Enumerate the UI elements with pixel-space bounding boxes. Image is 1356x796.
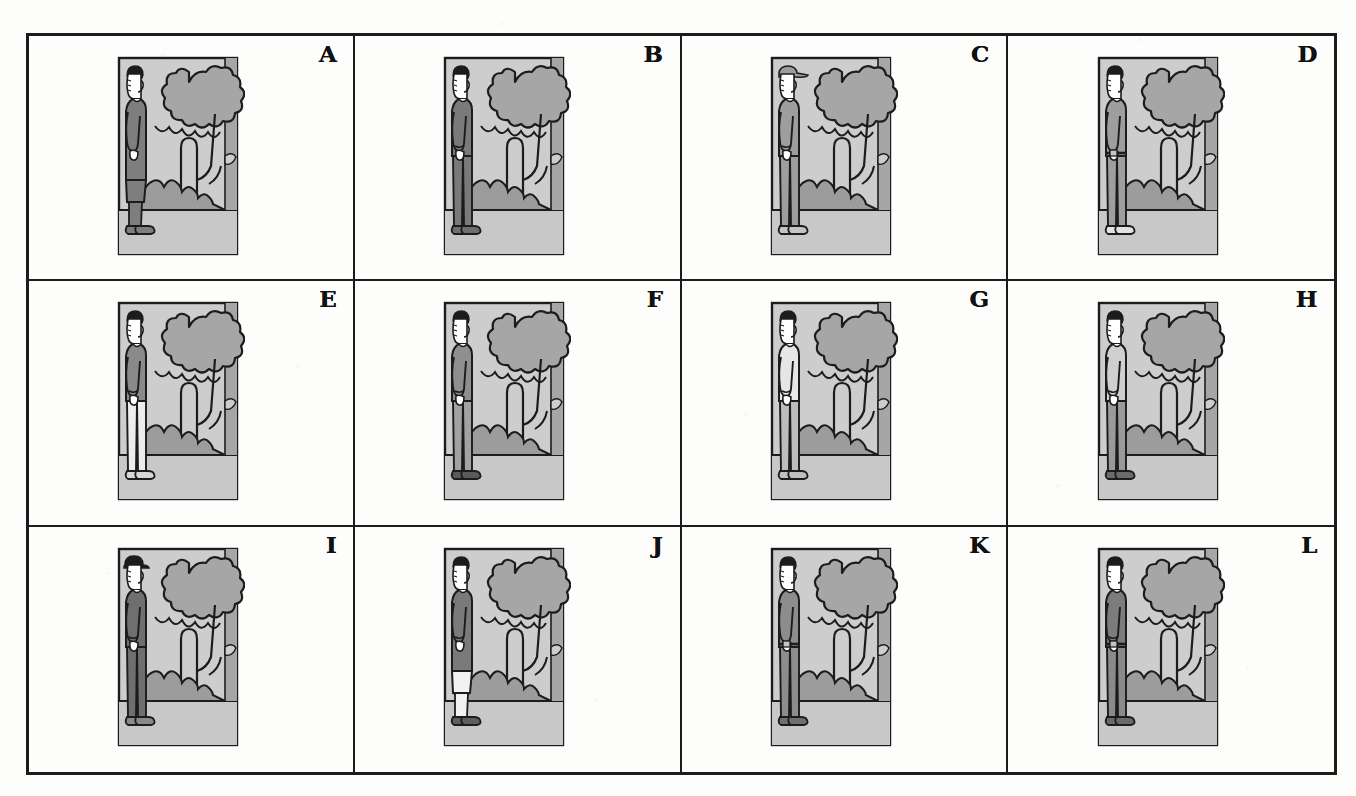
panel-label-f: F <box>647 287 664 310</box>
panel-label-e: E <box>319 287 337 310</box>
panel-c[interactable]: C <box>682 36 1008 281</box>
panel-l[interactable]: L <box>1008 527 1334 772</box>
panel-label-d: D <box>1298 42 1318 65</box>
figure-plate-sheet: A B <box>0 0 1356 796</box>
panel-b[interactable]: B <box>355 36 681 281</box>
panel-label-h: H <box>1296 287 1318 310</box>
panel-illustration-a <box>97 52 245 264</box>
panel-d[interactable]: D <box>1008 36 1334 281</box>
panel-label-g: G <box>970 287 990 310</box>
panel-label-i: I <box>326 533 337 556</box>
panel-e[interactable]: E <box>29 281 355 526</box>
panel-label-k: K <box>969 533 990 556</box>
panel-label-l: L <box>1301 533 1318 556</box>
panel-h[interactable]: H <box>1008 281 1334 526</box>
panel-illustration-c <box>750 52 898 264</box>
panel-illustration-e <box>97 297 245 509</box>
panel-f[interactable]: F <box>355 281 681 526</box>
panel-label-c: C <box>971 42 990 65</box>
panel-g[interactable]: G <box>682 281 1008 526</box>
panel-illustration-f <box>423 297 571 509</box>
panel-grid: A B <box>26 33 1337 775</box>
panel-illustration-b <box>423 52 571 264</box>
panel-j[interactable]: J <box>355 527 681 772</box>
panel-k[interactable]: K <box>682 527 1008 772</box>
panel-illustration-k <box>750 543 898 755</box>
panel-label-a: A <box>319 42 337 65</box>
panel-illustration-l <box>1077 543 1225 755</box>
panel-i[interactable]: I <box>29 527 355 772</box>
panel-illustration-g <box>750 297 898 509</box>
panel-illustration-h <box>1077 297 1225 509</box>
panel-label-b: B <box>644 42 664 65</box>
panel-illustration-i <box>97 543 245 755</box>
panel-label-j: J <box>652 533 663 556</box>
panel-a[interactable]: A <box>29 36 355 281</box>
panel-illustration-d <box>1077 52 1225 264</box>
panel-illustration-j <box>423 543 571 755</box>
